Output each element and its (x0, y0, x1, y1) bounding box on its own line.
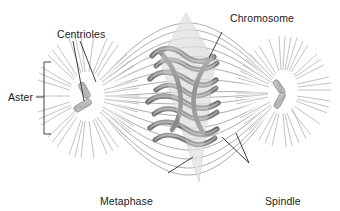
label-metaphase-plate: Metaphase plate (100, 170, 153, 211)
mitosis-metaphase-diagram: Centrioles Chromosome Aster Metaphase pl… (0, 0, 340, 211)
label-metaphase-plate-line1: Metaphase (100, 195, 153, 208)
leader-line-spindle-fibers (222, 137, 249, 163)
label-centrioles: Centrioles (57, 28, 105, 40)
label-spindle-fibers-line1: Spindle (265, 195, 301, 208)
leader-line-metaphase-plate (168, 157, 193, 173)
label-chromosome: Chromosome (230, 12, 294, 24)
leader-line-spindle-fibers (236, 133, 249, 163)
label-spindle-fibers: Spindle fibers (265, 170, 301, 211)
label-aster: Aster (8, 91, 33, 103)
